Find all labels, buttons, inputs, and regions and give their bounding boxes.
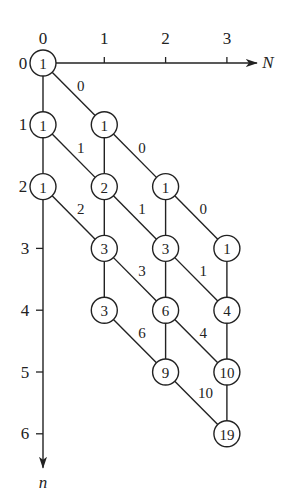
vertical-axis-tick-label: 4 — [21, 301, 30, 320]
node-value: 3 — [101, 303, 109, 319]
vertical-axis-tick-label: 0 — [19, 54, 28, 73]
horizontal-axis-tick-label: 3 — [223, 29, 232, 48]
lattice-node: 1 — [91, 112, 117, 138]
edge-weight-label: 4 — [200, 325, 208, 341]
node-value: 1 — [39, 180, 47, 196]
node-value: 9 — [162, 365, 170, 381]
node-value: 10 — [219, 365, 234, 381]
lattice-node: 3 — [153, 235, 179, 261]
edge-weight-label: 1 — [138, 201, 146, 217]
node-value: 1 — [101, 118, 109, 134]
lattice-node: 1 — [30, 174, 56, 200]
lattice-node: 1 — [30, 50, 56, 76]
axes-layer: 0123N0123456n — [19, 29, 275, 493]
lattice-node: 1 — [214, 235, 240, 261]
edge-weight-label: 0 — [77, 78, 85, 94]
lattice-node: 10 — [214, 359, 240, 385]
node-value: 1 — [162, 180, 170, 196]
diagonal-edge — [113, 319, 156, 362]
diagonal-edge — [113, 258, 156, 301]
lattice-node: 3 — [91, 235, 117, 261]
node-value: 2 — [101, 180, 109, 196]
edge-weight-label: 3 — [138, 263, 146, 279]
diagram-canvas: 0123N0123456n 012013601410 1111233136914… — [0, 0, 296, 497]
horizontal-axis-label: N — [261, 53, 275, 72]
vertical-axis-tick-label: 1 — [19, 115, 28, 134]
diagonal-edge — [175, 319, 218, 362]
edge-weight-label: 1 — [200, 263, 208, 279]
horizontal-axis-tick-label: 0 — [39, 29, 48, 48]
edge-weight-label: 1 — [77, 140, 85, 156]
vertical-axis-tick-label: 6 — [21, 424, 30, 443]
lattice-node: 19 — [214, 421, 240, 447]
diagonal-edge — [175, 196, 218, 239]
vertical-axis-tick-label: 5 — [21, 363, 30, 382]
lattice-diagram: 0123N0123456n 012013601410 1111233136914… — [0, 0, 296, 497]
node-value: 3 — [101, 241, 109, 257]
vertical-axis-tick-label: 3 — [21, 239, 30, 258]
diagonal-edge — [52, 196, 95, 239]
diagonal-edge — [52, 72, 95, 115]
diagonal-edge — [175, 258, 218, 301]
node-value: 1 — [39, 118, 47, 134]
vertical-axis-label: n — [39, 473, 48, 492]
lattice-node: 1 — [153, 174, 179, 200]
lattice-node: 3 — [91, 297, 117, 323]
node-value: 4 — [223, 303, 231, 319]
node-value: 19 — [219, 427, 234, 443]
node-value: 3 — [162, 241, 170, 257]
edges-layer — [43, 72, 227, 424]
node-value: 1 — [223, 241, 231, 257]
lattice-node: 6 — [153, 297, 179, 323]
diagonal-edge — [113, 196, 156, 239]
horizontal-axis-tick-label: 1 — [100, 29, 109, 48]
node-value: 1 — [39, 56, 47, 72]
diagonal-edge — [113, 134, 156, 177]
lattice-node: 2 — [91, 174, 117, 200]
lattice-node: 1 — [30, 112, 56, 138]
edge-weight-label: 10 — [198, 385, 213, 401]
lattice-node: 9 — [153, 359, 179, 385]
lattice-node: 4 — [214, 297, 240, 323]
node-value: 6 — [162, 303, 170, 319]
diagonal-edge — [52, 134, 95, 177]
edge-weight-label: 6 — [138, 325, 146, 341]
horizontal-axis-tick-label: 2 — [161, 29, 170, 48]
edge-weight-label: 0 — [138, 140, 146, 156]
vertical-axis-tick-label: 2 — [19, 177, 28, 196]
edge-weight-label: 2 — [77, 201, 85, 217]
edge-weight-label: 0 — [200, 201, 208, 217]
